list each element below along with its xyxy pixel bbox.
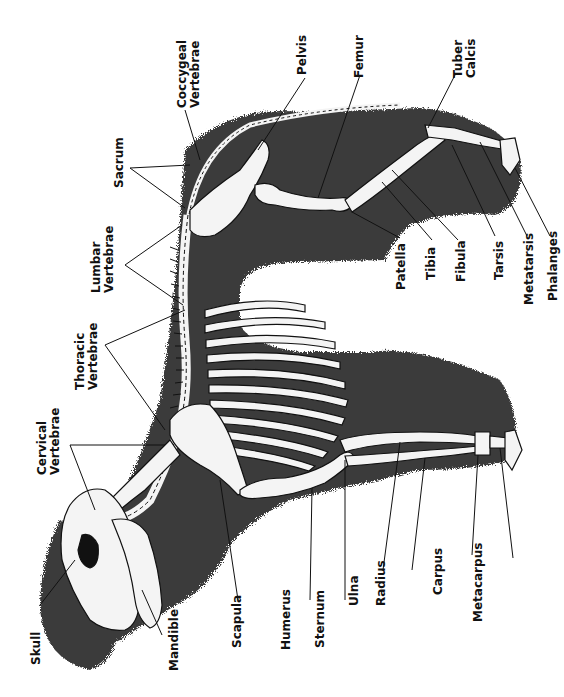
- label-text: Fibula: [454, 240, 468, 282]
- label-text: Metatarsis: [522, 233, 536, 305]
- label-mandible: Mandible: [168, 609, 181, 671]
- label-radius: Radius: [375, 560, 388, 606]
- label-text: Patella: [394, 243, 408, 290]
- label-carpus: Carpus: [432, 548, 445, 595]
- label-line-2: Calcis: [465, 39, 478, 78]
- label-text: Sternum: [313, 590, 327, 648]
- label-lumbar-vertebrae: Lumbar Vertebrae: [90, 226, 116, 293]
- label-tibia: Tibia: [425, 247, 438, 280]
- label-text: Carpus: [431, 548, 445, 595]
- sheep-skeleton-diagram: Coccygeal Vertebrae Sacrum Lumbar Verteb…: [0, 0, 564, 697]
- label-humerus: Humerus: [280, 589, 293, 650]
- label-text: Phalanges: [546, 231, 560, 301]
- label-thoracic-vertebrae: Thoracic Vertebrae: [74, 323, 100, 390]
- label-text: Radius: [374, 560, 388, 606]
- label-text: Femur: [352, 35, 366, 78]
- label-coccygeal-vertebrae: Coccygeal Vertebrae: [176, 40, 202, 108]
- label-text: Scapula: [230, 595, 244, 648]
- label-ulna: Ulna: [348, 576, 361, 607]
- label-tuber-calcis: Tuber Calcis: [452, 39, 478, 78]
- label-text: Tibia: [424, 247, 438, 280]
- label-line-2: Vertebrae: [87, 323, 100, 390]
- label-line-2: Vertebrae: [189, 40, 202, 108]
- label-phalanges: Phalanges: [547, 231, 560, 301]
- label-text: Metacarpus: [471, 543, 485, 622]
- label-metacarpus: Metacarpus: [472, 543, 485, 622]
- label-fibula: Fibula: [455, 240, 468, 282]
- label-cervical-vertebrae: Cervical Vertebrae: [36, 408, 62, 475]
- label-text: Mandible: [167, 609, 181, 671]
- label-pelvis: Pelvis: [296, 35, 309, 75]
- label-text: Humerus: [279, 589, 293, 650]
- label-femur: Femur: [353, 35, 366, 78]
- label-sacrum: Sacrum: [113, 137, 126, 188]
- label-skull: Skull: [30, 632, 43, 665]
- label-text: Ulna: [347, 576, 361, 607]
- label-text: Skull: [29, 632, 43, 665]
- label-text: Pelvis: [295, 35, 309, 75]
- label-line-2: Vertebrae: [103, 226, 116, 293]
- label-patella: Patella: [395, 243, 408, 290]
- label-scapula: Scapula: [231, 595, 244, 648]
- label-text: Tarsis: [492, 241, 506, 280]
- label-text: Sacrum: [112, 137, 126, 188]
- label-line-2: Vertebrae: [49, 408, 62, 475]
- label-sternum: Sternum: [314, 590, 327, 648]
- label-metatarsis: Metatarsis: [523, 233, 536, 305]
- label-tarsis: Tarsis: [493, 241, 506, 280]
